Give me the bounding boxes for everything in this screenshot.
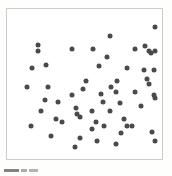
scatter-plot-figure: Fig 1: [0, 0, 172, 176]
scatter-point: [43, 98, 48, 103]
scatter-point: [143, 43, 148, 48]
scatter-point: [74, 106, 79, 111]
scatter-point: [144, 76, 149, 81]
scatter-point: [95, 139, 100, 144]
scatter-point: [48, 133, 53, 138]
scatter-point: [138, 103, 143, 108]
scatter-point: [78, 136, 83, 141]
scatter-point: [102, 124, 107, 129]
scatter-point: [35, 42, 40, 47]
scatter-point: [96, 64, 101, 69]
scatter-point: [147, 82, 152, 87]
scatter-point: [133, 90, 138, 95]
scatter-point: [45, 84, 50, 89]
scatter-point: [59, 120, 64, 125]
scatter-point: [117, 101, 122, 106]
scatter-point: [141, 68, 146, 73]
scatter-point: [124, 65, 129, 70]
scatter-point: [24, 84, 29, 89]
scatter-point: [44, 62, 49, 67]
scatter-point: [69, 46, 74, 51]
scatter-point: [105, 54, 110, 59]
scatter-point: [124, 124, 129, 129]
scatter-point: [153, 49, 158, 54]
scatter-point: [151, 68, 156, 73]
scatter-point: [121, 117, 126, 122]
scatter-point: [89, 126, 94, 131]
scatter-point: [107, 34, 112, 39]
caption-segment-2: [21, 169, 27, 172]
scatter-point: [153, 95, 158, 100]
scatter-point: [28, 124, 33, 129]
plot-frame: [6, 8, 163, 160]
scatter-point: [90, 46, 95, 51]
scatter-point: [150, 129, 155, 134]
scatter-point: [107, 109, 112, 114]
plot-area: [7, 9, 162, 159]
scatter-point: [78, 114, 83, 119]
scatter-point: [153, 24, 158, 29]
caption-segment-3: [29, 169, 38, 172]
scatter-point: [35, 49, 40, 54]
scatter-point: [72, 144, 77, 149]
scatter-point: [114, 79, 119, 84]
scatter-point: [130, 124, 135, 129]
scatter-point: [113, 141, 118, 146]
scatter-point: [89, 109, 94, 114]
scatter-point: [30, 65, 35, 70]
scatter-point: [113, 90, 118, 95]
scatter-point: [69, 92, 74, 97]
scatter-point: [54, 117, 59, 122]
scatter-point: [81, 87, 86, 92]
scatter-point: [38, 109, 43, 114]
scatter-point: [119, 130, 124, 135]
scatter-point: [83, 79, 88, 84]
scatter-point: [99, 91, 104, 96]
scatter-point: [100, 99, 105, 104]
scatter-point: [93, 120, 98, 125]
scatter-point: [153, 139, 158, 144]
scatter-point: [55, 99, 60, 104]
scatter-point: [133, 46, 138, 51]
scatter-point: [109, 84, 114, 89]
